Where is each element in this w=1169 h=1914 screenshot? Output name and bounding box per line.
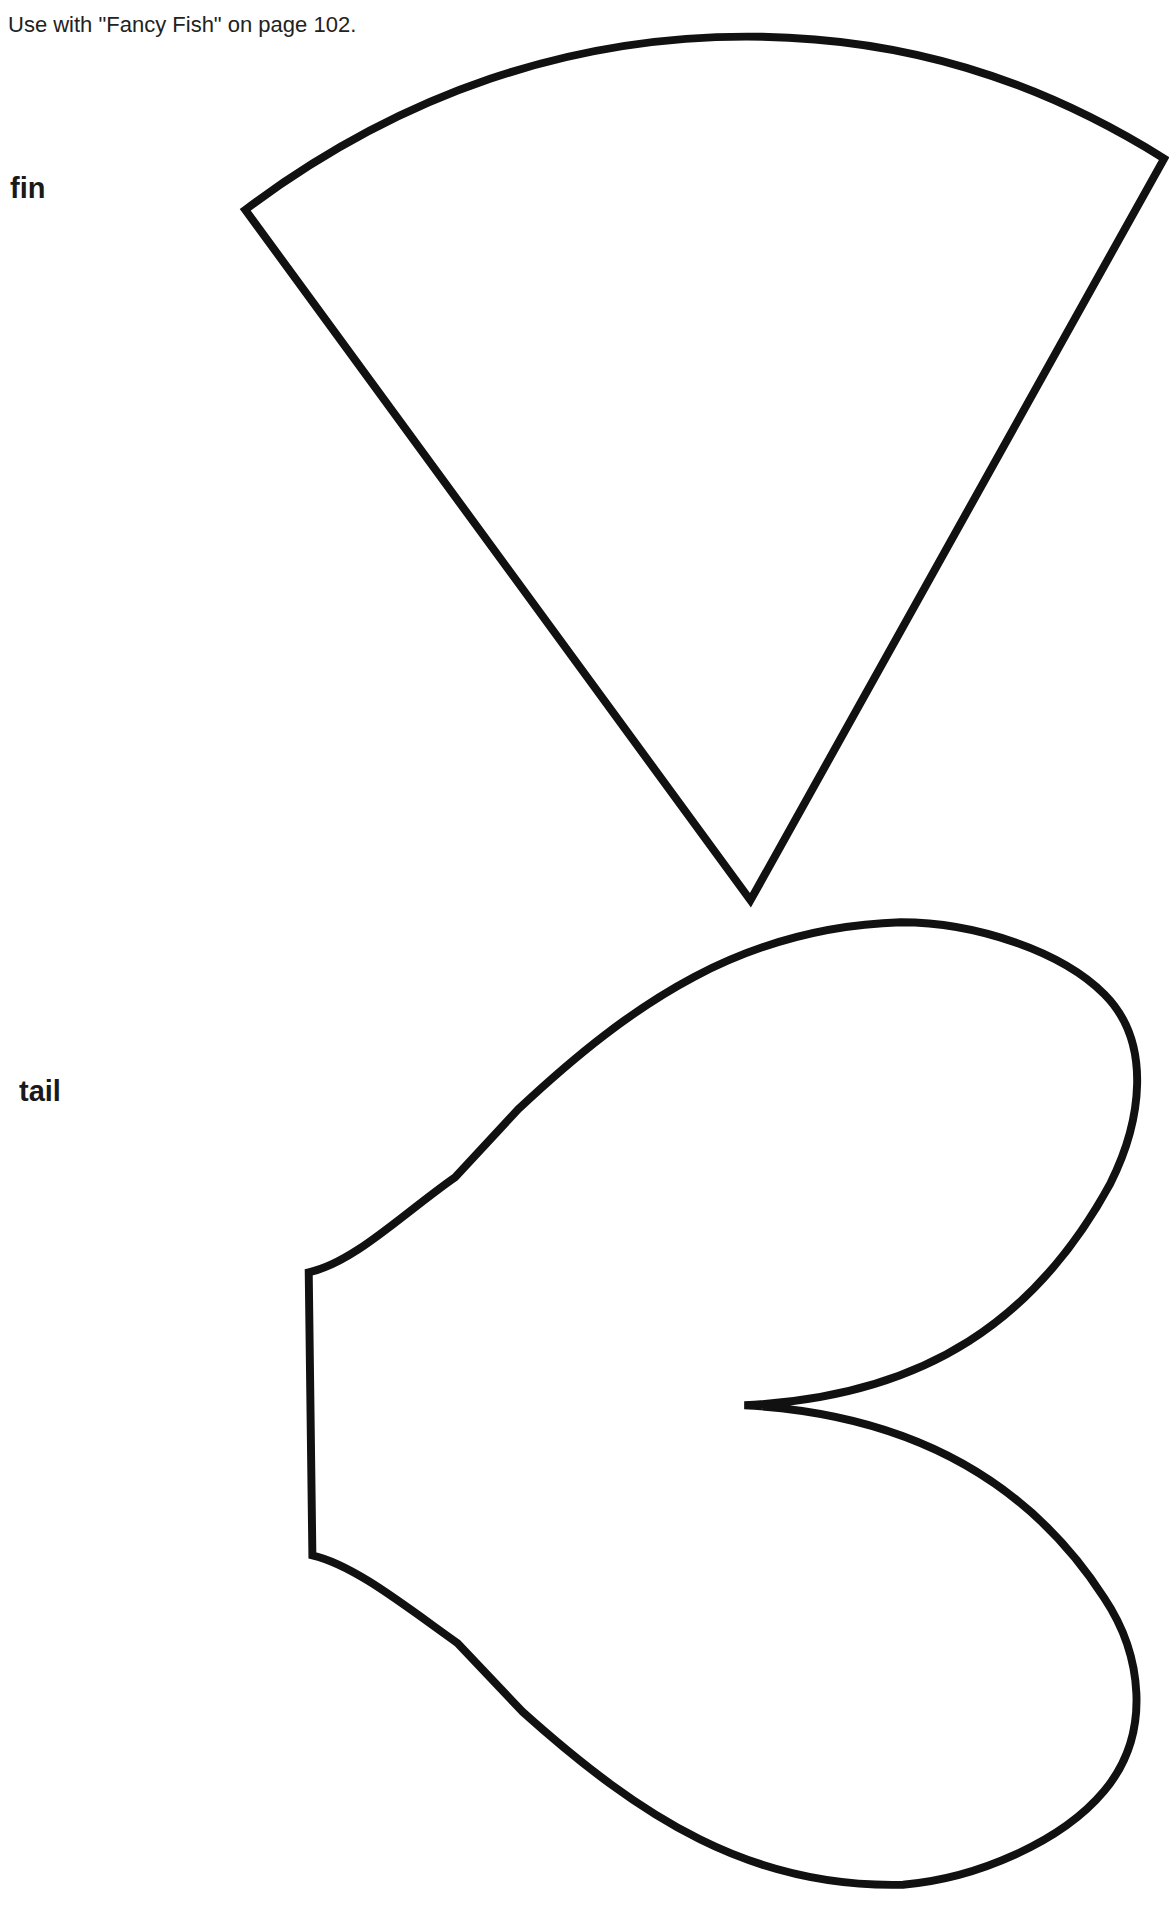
tail-outline-icon xyxy=(309,922,1137,1885)
fin-outline-icon xyxy=(245,37,1164,901)
template-page: Use with "Fancy Fish" on page 102. fin t… xyxy=(0,0,1169,1914)
shapes-canvas xyxy=(0,0,1169,1914)
